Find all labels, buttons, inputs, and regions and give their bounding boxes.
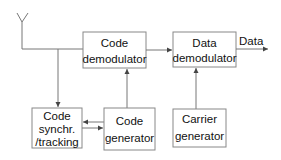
code-synch-label-1: Code [43, 110, 71, 122]
carrier-generator-label-1: Carrier [182, 113, 217, 125]
code-generator-block: Code generator [104, 108, 155, 150]
code-synch-label-3: /tracking [35, 136, 78, 148]
code-synch-label-2: synchr. [39, 123, 75, 135]
carrier-generator-label-2: generator [175, 130, 224, 142]
code-generator-label-2: generator [105, 132, 154, 144]
data-output-label: Data [239, 35, 264, 47]
carrier-generator-block: Carrier generator [173, 109, 226, 147]
antenna-icon [17, 13, 28, 49]
code-generator-label-1: Code [116, 115, 144, 127]
code-demodulator-label-1: Code [101, 37, 129, 49]
block-diagram: Code demodulator Data demodulator Data C… [0, 0, 281, 160]
code-demodulator-label-2: demodulator [83, 53, 147, 65]
data-demodulator-label-2: demodulator [173, 52, 237, 64]
data-demodulator-block: Data demodulator [173, 32, 237, 67]
code-demodulator-block: Code demodulator [83, 32, 147, 68]
code-synch-block: Code synchr. /tracking [32, 108, 82, 148]
data-demodulator-label-1: Data [192, 37, 217, 49]
data-output-arrow: Data [236, 35, 268, 49]
